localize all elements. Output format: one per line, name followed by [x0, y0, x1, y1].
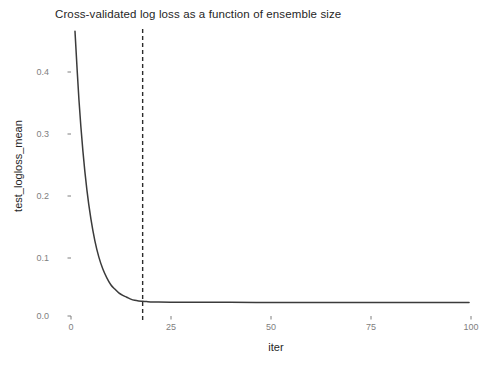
chart-container: Cross-validated log loss as a function o…	[0, 0, 498, 369]
loss-curve-line	[75, 31, 469, 302]
plot-svg	[0, 0, 498, 369]
y-axis-tick-marks	[68, 72, 72, 316]
x-axis-tick-marks	[71, 316, 471, 320]
